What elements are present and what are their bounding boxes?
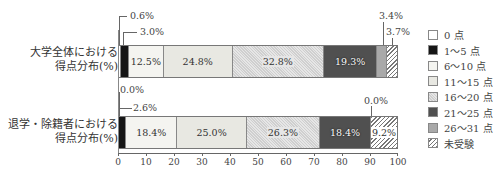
callout-1to5-row2: 2.6% (133, 102, 157, 113)
bar-segment-6to10: 12.5% (129, 46, 164, 77)
x-tick-label: 100 (389, 157, 406, 167)
x-tick-label: 90 (364, 157, 375, 167)
x-tick-label: 60 (280, 157, 291, 167)
row-label-line2: 得点分布(%) (30, 60, 118, 74)
x-tick-label: 10 (140, 157, 151, 167)
x-tick (397, 153, 398, 156)
legend-item-11to15: 11〜15 点 (428, 74, 493, 90)
x-tick-label: 70 (308, 157, 319, 167)
bar-segment-16to20: 32.8% (233, 46, 324, 77)
bar-segment-21to25: 18.4% (320, 117, 371, 148)
legend-swatch (428, 123, 438, 133)
callout-tick-1to5-row1 (123, 32, 137, 33)
legend-swatch (428, 76, 438, 86)
x-tick-label: 30 (196, 157, 207, 167)
x-tick (118, 153, 119, 156)
legend-swatch (428, 92, 438, 102)
callout-tick-0pt-row1 (119, 16, 127, 17)
callout-line-0pt-row2 (119, 92, 120, 116)
stacked-bar-university: 12.5% 24.8% 32.8% 19.3% (118, 45, 398, 78)
row-label-university: 大学全体における 得点分布(%) (30, 46, 118, 74)
x-tick (174, 153, 175, 156)
legend-item-1to5: 1〜5 点 (428, 43, 493, 59)
x-tick (286, 153, 287, 156)
x-tick-label: 80 (336, 157, 347, 167)
y-axis-line (118, 30, 119, 154)
legend-item-26to31: 26〜31 点 (428, 120, 493, 136)
callout-tick-1to5-row2 (120, 108, 132, 109)
x-tick (370, 153, 371, 156)
callout-untested-row1: 3.7% (386, 26, 410, 37)
x-tick (258, 153, 259, 156)
bar-segment-1to5 (121, 46, 129, 77)
legend-item-0pt: 0 点 (428, 27, 493, 43)
callout-1to5-row1: 3.0% (140, 26, 164, 37)
bar-segment-26to31 (377, 46, 386, 77)
callout-line-1to5-row1 (123, 32, 124, 45)
row-label-line2: 得点分布(%) (8, 132, 118, 146)
row-label-line1: 大学全体における (30, 46, 118, 60)
legend-item-21to25: 21〜25 点 (428, 105, 493, 121)
callout-0pt-row2: 0.0% (120, 84, 144, 95)
x-tick (230, 153, 231, 156)
legend-swatch (428, 61, 438, 71)
bar-segment-21to25: 19.3% (324, 46, 378, 77)
callout-26to31-row1: 3.4% (379, 10, 403, 21)
bar-segment-6to10: 18.4% (126, 117, 177, 148)
x-tick (342, 153, 343, 156)
callout-line-0pt-row1 (119, 16, 120, 45)
legend-swatch (428, 45, 438, 55)
x-tick-label: 40 (224, 157, 235, 167)
x-tick (146, 153, 147, 156)
bar-segment-untested (387, 46, 397, 77)
legend-swatch (428, 107, 438, 117)
callout-line-26to31-row1 (383, 22, 384, 45)
legend-item-untested: 未受験 (428, 136, 493, 152)
legend-item-16to20: 16〜20 点 (428, 89, 493, 105)
legend-swatch (428, 30, 438, 40)
legend: 0 点 1〜5 点 6〜10 点 11〜15 点 16〜20 点 21〜25 点… (428, 27, 493, 151)
bar-segment-11to15: 25.0% (177, 117, 247, 148)
callout-0pt-row1: 0.6% (130, 10, 154, 21)
x-tick-label: 0 (115, 157, 121, 167)
row-label-line1: 退学・除籍者における (8, 118, 118, 132)
bar-segment-16to20: 26.3% (247, 117, 320, 148)
bar-segment-11to15: 24.8% (164, 46, 233, 77)
callout-26to31-row2: 0.0% (364, 95, 388, 106)
stacked-bar-dropouts: 18.4% 25.0% 26.3% 18.4% 9.2% (118, 116, 398, 149)
row-label-dropouts: 退学・除籍者における 得点分布(%) (8, 118, 118, 146)
x-tick-label: 20 (168, 157, 179, 167)
x-tick (314, 153, 315, 156)
bar-segment-untested: 9.2% (371, 117, 397, 148)
callout-line-26to31-row2 (371, 106, 372, 116)
x-tick-label: 50 (252, 157, 263, 167)
bar-segment-1to5 (119, 117, 126, 148)
x-tick (202, 153, 203, 156)
callout-line-untested-row1 (392, 38, 393, 45)
legend-swatch (428, 138, 438, 148)
legend-item-6to10: 6〜10 点 (428, 58, 493, 74)
